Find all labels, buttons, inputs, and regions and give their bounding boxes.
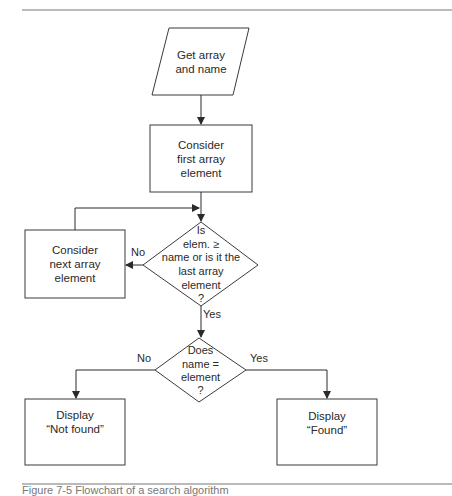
found-label: Display “Found”: [277, 399, 377, 447]
text-line: next array: [49, 257, 100, 271]
decision-1-label: Is elem. ≥ name or is it the last array …: [143, 222, 259, 308]
decision-2-label: Does name = element ?: [155, 340, 246, 402]
text-line: Consider: [178, 138, 224, 152]
decision-2-yes-label: Yes: [250, 352, 268, 364]
decision-2-no-label: No: [137, 352, 151, 364]
decision-1-no-label: No: [131, 246, 145, 258]
text-line: Get array: [177, 48, 225, 62]
text-line: element: [181, 166, 222, 180]
decision-1-yes-label: Yes: [203, 308, 221, 320]
text-line: name =: [182, 358, 219, 371]
text-line: “Found”: [307, 423, 347, 437]
text-line: first array: [177, 152, 225, 166]
text-line: name or is it the: [162, 251, 240, 265]
next-element-label: Consider next array element: [25, 230, 125, 298]
text-line: last array: [178, 265, 223, 279]
first-element-label: Consider first array element: [150, 125, 252, 192]
text-line: elem. ≥: [183, 238, 219, 252]
text-line: element: [181, 279, 220, 293]
text-line: Does: [188, 344, 214, 357]
not-found-label: Display “Not found”: [25, 399, 125, 445]
text-line: element: [55, 271, 96, 285]
text-line: ?: [197, 384, 203, 397]
input-label: Get array and name: [160, 40, 242, 84]
text-line: Consider: [52, 243, 98, 257]
text-line: Display: [308, 409, 346, 423]
text-line: Is: [197, 224, 206, 238]
edge-decision2-yes: [246, 370, 327, 398]
text-line: ?: [198, 292, 204, 306]
figure-caption: Figure 7-5 Flowchart of a search algorit…: [22, 484, 229, 496]
text-line: element: [181, 371, 220, 384]
edge-decision2-no: [76, 370, 155, 398]
text-line: “Not found”: [46, 422, 104, 436]
text-line: Display: [56, 408, 94, 422]
text-line: and name: [175, 62, 226, 76]
